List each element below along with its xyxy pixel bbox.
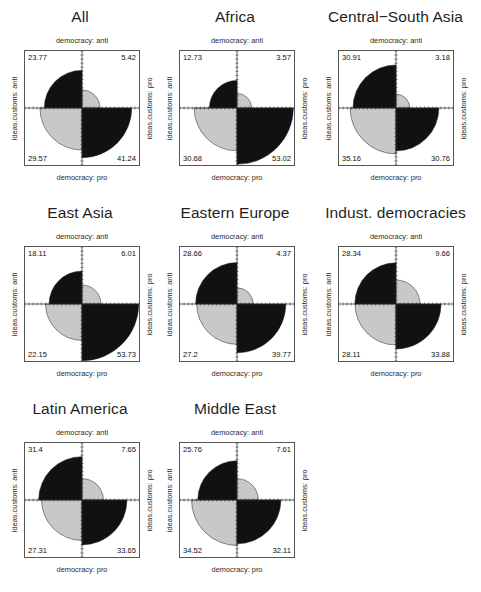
fourfold-svg (339, 247, 453, 361)
panel-title: East Asia (0, 204, 160, 222)
panel-title: Eastern Europe (155, 204, 315, 222)
axis-label-top: democracy: anti (338, 232, 454, 241)
axis-label-bottom: democracy: pro (338, 369, 454, 378)
fourfold-display-grid: All democracy: anti democracy: pro ideas… (0, 0, 481, 592)
cell-value-top-right: 3.18 (435, 53, 450, 62)
cell-value-bottom-left: 29.57 (28, 154, 47, 163)
fourfold-svg (25, 247, 139, 361)
cell-value-bottom-right: 39.77 (272, 350, 291, 359)
fourfold-svg (25, 51, 139, 165)
axis-label-top: democracy: anti (24, 36, 140, 45)
cell-value-top-left: 28.66 (183, 249, 202, 258)
cell-value-top-left: 23.77 (28, 53, 47, 62)
axis-label-right: ideas.customs: pro (144, 246, 154, 362)
axis-label-left: ideas.customs: anti (10, 442, 20, 558)
fourfold-box: 31.4 7.65 27.31 33.65 (24, 442, 140, 558)
cell-value-top-left: 31.4 (28, 445, 43, 454)
axis-label-left: ideas.customs: anti (165, 50, 175, 166)
cell-value-top-left: 30.91 (342, 53, 361, 62)
cell-value-top-right: 4.37 (276, 249, 291, 258)
fourfold-svg (25, 443, 139, 557)
cell-value-bottom-left: 22.15 (28, 350, 47, 359)
fourfold-svg (180, 247, 294, 361)
fourfold-panel: Eastern Europe democracy: anti democracy… (155, 196, 315, 394)
fourfold-panel: All democracy: anti democracy: pro ideas… (0, 0, 160, 198)
cell-value-bottom-left: 34.52 (183, 546, 202, 555)
panel-title: Indust. democracies (310, 204, 481, 222)
fourfold-box: 12.73 3.57 30.68 53.02 (179, 50, 295, 166)
cell-value-top-right: 9.66 (435, 249, 450, 258)
axis-label-right: ideas.customs: pro (299, 442, 309, 558)
fourfold-panel: Latin America democracy: anti democracy:… (0, 392, 160, 590)
axis-label-right: ideas.customs: pro (458, 246, 468, 362)
axis-label-left: ideas.customs: anti (10, 246, 20, 362)
cell-value-bottom-left: 28.11 (342, 350, 360, 359)
axis-label-top: democracy: anti (179, 36, 295, 45)
axis-label-top: democracy: anti (338, 36, 454, 45)
cell-value-top-right: 7.61 (276, 445, 291, 454)
fourfold-box: 25.76 7.61 34.52 32.11 (179, 442, 295, 558)
fourfold-svg (180, 443, 294, 557)
axis-label-right: ideas.customs: pro (299, 50, 309, 166)
axis-label-bottom: democracy: pro (179, 565, 295, 574)
cell-value-bottom-right: 32.11 (273, 546, 291, 555)
axis-label-left: ideas.customs: anti (324, 50, 334, 166)
cell-value-top-right: 6.01 (121, 249, 136, 258)
fourfold-box: 30.91 3.18 35.16 30.76 (338, 50, 454, 166)
plot-area: democracy: anti democracy: pro ideas.cus… (24, 36, 140, 182)
axis-label-right: ideas.customs: pro (458, 50, 468, 166)
axis-label-right: ideas.customs: pro (299, 246, 309, 362)
axis-label-bottom: democracy: pro (179, 369, 295, 378)
axis-label-bottom: democracy: pro (24, 369, 140, 378)
cell-value-bottom-right: 53.02 (272, 154, 291, 163)
axis-label-bottom: democracy: pro (24, 173, 140, 182)
plot-area: democracy: anti democracy: pro ideas.cus… (179, 232, 295, 378)
axis-label-bottom: democracy: pro (338, 173, 454, 182)
panel-title: Middle East (155, 400, 315, 418)
axis-label-right: ideas.customs: pro (144, 50, 154, 166)
cell-value-bottom-right: 30.76 (431, 154, 450, 163)
cell-value-bottom-right: 53.73 (117, 350, 136, 359)
fourfold-box: 28.66 4.37 27.2 39.77 (179, 246, 295, 362)
fourfold-panel: Middle East democracy: anti democracy: p… (155, 392, 315, 590)
fourfold-panel: Africa democracy: anti democracy: pro id… (155, 0, 315, 198)
axis-label-top: democracy: anti (179, 232, 295, 241)
plot-area: democracy: anti democracy: pro ideas.cus… (24, 428, 140, 574)
cell-value-top-right: 5.42 (121, 53, 136, 62)
axis-label-top: democracy: anti (24, 428, 140, 437)
axis-label-left: ideas.customs: anti (165, 442, 175, 558)
fourfold-box: 23.77 5.42 29.57 41.24 (24, 50, 140, 166)
panel-title: All (0, 8, 160, 26)
cell-value-top-left: 28.34 (342, 249, 361, 258)
cell-value-bottom-right: 33.65 (117, 546, 136, 555)
axis-label-top: democracy: anti (24, 232, 140, 241)
fourfold-svg (180, 51, 294, 165)
panel-title: Latin America (0, 400, 160, 418)
cell-value-top-left: 12.73 (183, 53, 202, 62)
axis-label-left: ideas.customs: anti (324, 246, 334, 362)
axis-label-left: ideas.customs: anti (10, 50, 20, 166)
cell-value-top-right: 7.65 (121, 445, 136, 454)
fourfold-panel: East Asia democracy: anti democracy: pro… (0, 196, 160, 394)
plot-area: democracy: anti democracy: pro ideas.cus… (338, 36, 454, 182)
cell-value-bottom-right: 41.24 (117, 154, 136, 163)
fourfold-box: 28.34 9.66 28.11 33.88 (338, 246, 454, 362)
fourfold-panel: Central−South Asia democracy: anti democ… (310, 0, 481, 198)
plot-area: democracy: anti democracy: pro ideas.cus… (179, 428, 295, 574)
panel-title: Central−South Asia (310, 8, 481, 26)
fourfold-svg (339, 51, 453, 165)
plot-area: democracy: anti democracy: pro ideas.cus… (179, 36, 295, 182)
axis-label-top: democracy: anti (179, 428, 295, 437)
cell-value-bottom-left: 35.16 (342, 154, 361, 163)
fourfold-box: 18.11 6.01 22.15 53.73 (24, 246, 140, 362)
axis-label-bottom: democracy: pro (179, 173, 295, 182)
plot-area: democracy: anti democracy: pro ideas.cus… (24, 232, 140, 378)
cell-value-top-left: 25.76 (183, 445, 202, 454)
cell-value-bottom-left: 30.68 (183, 154, 202, 163)
cell-value-top-left: 18.11 (28, 249, 46, 258)
cell-value-top-right: 3.57 (276, 53, 291, 62)
panel-title: Africa (155, 8, 315, 26)
cell-value-bottom-left: 27.31 (28, 546, 47, 555)
axis-label-bottom: democracy: pro (24, 565, 140, 574)
fourfold-panel: Indust. democracies democracy: anti demo… (310, 196, 481, 394)
